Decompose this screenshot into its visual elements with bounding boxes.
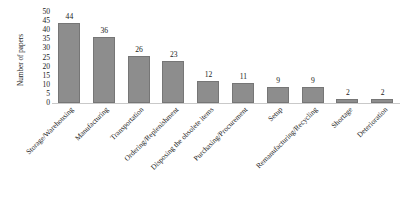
bar-value-label: 44 [52, 13, 87, 21]
bar-slot [191, 12, 226, 103]
bar-value-label: 2 [330, 89, 365, 97]
bar-slot [296, 12, 331, 103]
y-tick-label: 25 [28, 54, 50, 62]
y-tick-label: 20 [28, 63, 50, 71]
bar-value-label: 9 [296, 77, 331, 85]
bar-value-label: 26 [122, 46, 157, 54]
y-tick-label: 15 [28, 72, 50, 80]
bar[interactable] [267, 87, 289, 103]
y-tick-label: 0 [28, 99, 50, 107]
bar-value-label: 23 [156, 51, 191, 59]
bar-value-label: 9 [261, 77, 296, 85]
bar-value-label: 2 [365, 89, 400, 97]
bar[interactable] [302, 87, 324, 103]
bar[interactable] [93, 37, 115, 103]
y-tick-label: 50 [28, 8, 50, 16]
y-axis-title: Number of papers [14, 14, 28, 106]
y-tick-label: 30 [28, 44, 50, 52]
bar[interactable] [336, 99, 358, 103]
bar[interactable] [197, 81, 219, 103]
bar[interactable] [371, 99, 393, 103]
bar-chart-figure: Number of papers 50454035302520151050 44… [0, 0, 405, 210]
bar-slot [261, 12, 296, 103]
bar-slot [226, 12, 261, 103]
bar-value-label: 36 [87, 27, 122, 35]
bar-slot [52, 12, 87, 103]
bar[interactable] [162, 61, 184, 103]
bar[interactable] [58, 23, 80, 103]
y-tick-label: 5 [28, 90, 50, 98]
bar-slot [122, 12, 157, 103]
bar[interactable] [232, 83, 254, 103]
bar-value-label: 11 [226, 73, 261, 81]
y-tick-label: 35 [28, 35, 50, 43]
y-tick-label: 45 [28, 17, 50, 25]
bar-value-label: 12 [191, 71, 226, 79]
bar[interactable] [128, 56, 150, 103]
y-tick-label: 10 [28, 81, 50, 89]
y-tick-label: 40 [28, 26, 50, 34]
